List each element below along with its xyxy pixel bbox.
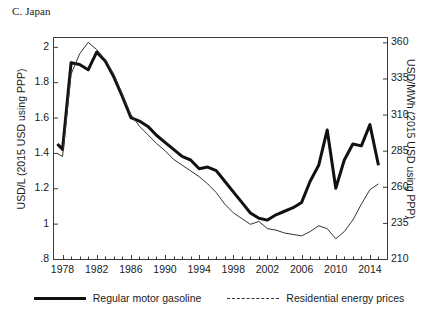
y-right-tick-label: 210 xyxy=(391,252,421,264)
y-left-tick-label: 1.6 xyxy=(5,111,49,123)
x-tick-label: 1994 xyxy=(181,263,217,275)
legend-label-residential: Residential energy prices xyxy=(286,292,404,304)
y-left-tick-label: 1.4 xyxy=(5,146,49,158)
y-left-tick-label: 2 xyxy=(5,40,49,52)
y-right-tick-label: 360 xyxy=(391,35,421,47)
y-right-tick-label: 235 xyxy=(391,216,421,228)
chart-lines xyxy=(54,38,387,259)
x-tick-label: 2006 xyxy=(284,263,320,275)
chart-panel: C. Japan USD/L (2015 USD using PPP) USD/… xyxy=(0,0,438,322)
x-tick-label: 1986 xyxy=(113,263,149,275)
page-title: C. Japan xyxy=(12,5,51,17)
legend: Regular motor gasoline Residential energ… xyxy=(0,292,438,304)
plot-area xyxy=(53,37,388,260)
x-tick-label: 1978 xyxy=(45,263,81,275)
y-right-tick-label: 310 xyxy=(391,108,421,120)
y-right-tick-label: 260 xyxy=(391,180,421,192)
x-tick-label: 1982 xyxy=(79,263,115,275)
x-tick-label: 1998 xyxy=(215,263,251,275)
series-line-2 xyxy=(57,42,378,238)
legend-item-residential: Residential energy prices xyxy=(227,292,404,304)
x-tick-label: 2010 xyxy=(318,263,354,275)
y-left-tick-label: 1.2 xyxy=(5,181,49,193)
y-right-tick-label: 285 xyxy=(391,144,421,156)
y-left-tick-label: .8 xyxy=(5,252,49,264)
x-tick-label: 2002 xyxy=(249,263,285,275)
y-left-tick-label: 1 xyxy=(5,217,49,229)
y-axis-left-title: USD/L (2015 USD using PPP) xyxy=(15,39,27,239)
x-tick-label: 2014 xyxy=(352,263,388,275)
y-right-tick-label: 335 xyxy=(391,71,421,83)
y-left-tick-label: 1.8 xyxy=(5,75,49,87)
legend-swatch-dashed-icon xyxy=(227,298,279,299)
legend-label-gasoline: Regular motor gasoline xyxy=(93,292,202,304)
x-tick-label: 1990 xyxy=(147,263,183,275)
legend-item-gasoline: Regular motor gasoline xyxy=(34,292,202,304)
y-axis-right-title: USD/MWh (2015 USD using PPP) xyxy=(405,39,417,239)
legend-swatch-solid-icon xyxy=(34,297,86,300)
